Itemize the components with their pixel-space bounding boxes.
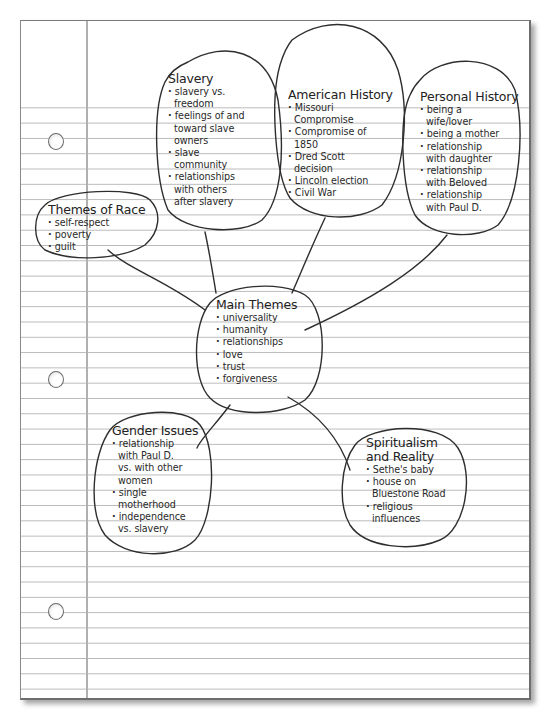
list-item: relationship: [420, 189, 520, 201]
list-item: independence: [112, 511, 212, 523]
list-item: religious: [366, 501, 466, 513]
list-item: Dred Scott: [288, 151, 403, 163]
list-item: Lincoln election: [288, 175, 403, 187]
binder-hole-middle: [48, 371, 64, 388]
list-item-cont: Bluestone Road: [366, 488, 466, 500]
list-item-cont: with Paul D.: [112, 450, 212, 462]
list-item: poverty: [48, 229, 158, 241]
node-title: Themes of Race: [48, 203, 158, 217]
margin-line: [86, 21, 88, 698]
node-main-themes: Main Themes universality humanity relati…: [216, 298, 326, 385]
list-item: Sethe's baby: [366, 464, 466, 476]
list-item: feelings of and: [168, 110, 278, 122]
list-item: humanity: [216, 324, 326, 336]
list-item-cont: with daughter: [420, 153, 520, 165]
node-personal-history: Personal History being a wife/lover bein…: [420, 90, 520, 214]
list-item-cont: owners: [168, 135, 278, 147]
list-item: relationships: [216, 336, 326, 348]
list-item: being a: [420, 104, 520, 116]
list-item-cont: with Paul D.: [420, 202, 520, 214]
list-item-cont: women: [112, 475, 212, 487]
list-item: single: [112, 487, 212, 499]
node-title-line2: and Reality: [366, 450, 466, 464]
list-item: slave: [168, 147, 278, 159]
list-item: universality: [216, 312, 326, 324]
list-item-cont: Compromise: [288, 114, 403, 126]
list-item: relationship: [420, 141, 520, 153]
list-item: trust: [216, 361, 326, 373]
node-title: Personal History: [420, 90, 520, 104]
node-slavery: Slavery slavery vs. freedom feelings of …: [168, 72, 278, 208]
list-item: relationships: [168, 171, 278, 183]
node-title-line1: Spiritualism: [366, 436, 466, 450]
node-title: Gender Issues: [112, 424, 212, 438]
list-item-cont: decision: [288, 163, 403, 175]
node-american-history: American History Missouri Compromise Com…: [288, 88, 403, 200]
list-item: Civil War: [288, 187, 403, 199]
list-item-cont: motherhood: [112, 499, 212, 511]
list-item: slavery vs.: [168, 86, 278, 98]
list-item: being a mother: [420, 128, 520, 140]
binder-hole-top: [48, 133, 64, 150]
list-item: Compromise of: [288, 126, 403, 138]
list-item: forgiveness: [216, 373, 326, 385]
list-item-cont: with Beloved: [420, 177, 520, 189]
list-item-cont: wife/lover: [420, 116, 520, 128]
list-item-cont: community: [168, 159, 278, 171]
list-item-cont: vs. with other: [112, 462, 212, 474]
list-item-cont: toward slave: [168, 123, 278, 135]
list-item: guilt: [48, 241, 158, 253]
list-item-cont: 1850: [288, 139, 403, 151]
list-item-cont: influences: [366, 513, 466, 525]
node-gender-issues: Gender Issues relationship with Paul D. …: [112, 424, 212, 536]
list-item: relationship: [420, 165, 520, 177]
node-title: American History: [288, 88, 403, 102]
list-item: love: [216, 349, 326, 361]
list-item-cont: with others: [168, 184, 278, 196]
list-item: house on: [366, 476, 466, 488]
list-item: self-respect: [48, 217, 158, 229]
binder-hole-bottom: [48, 603, 64, 620]
node-spiritualism: Spiritualism and Reality Sethe's baby ho…: [366, 436, 466, 525]
list-item-cont: after slavery: [168, 196, 278, 208]
node-themes-of-race: Themes of Race self-respect poverty guil…: [48, 203, 158, 254]
list-item: relationship: [112, 438, 212, 450]
list-item-cont: freedom: [168, 98, 278, 110]
center-title: Main Themes: [216, 298, 326, 312]
list-item-cont: vs. slavery: [112, 523, 212, 535]
list-item: Missouri: [288, 102, 403, 114]
node-title: Slavery: [168, 72, 278, 86]
